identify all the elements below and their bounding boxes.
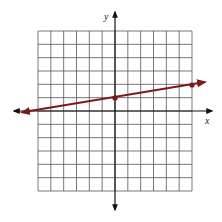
- y-axis-label: y: [103, 11, 109, 22]
- x-axis-label: x: [204, 115, 210, 126]
- coordinate-plane: x y: [0, 0, 222, 222]
- point-y-intercept: [112, 95, 117, 100]
- point-6-2: [189, 82, 194, 87]
